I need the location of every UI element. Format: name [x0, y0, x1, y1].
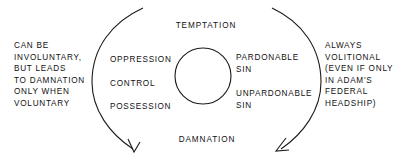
unpardonable-sin-line: SIN	[236, 100, 312, 112]
label-temptation: TEMPTATION	[166, 21, 246, 30]
left-explanation-line: BUT LEADS	[14, 63, 85, 75]
right-explanation-line: IN ADAM'S	[325, 75, 393, 87]
left-arrowhead-icon	[128, 139, 140, 152]
stage-label-possession: POSSESSION	[110, 102, 171, 111]
stage-label-unpardonable-sin: UNPARDONABLE SIN	[236, 88, 312, 113]
center-circle	[175, 48, 231, 104]
demonology-sin-diagram: TEMPTATION DAMNATION CAN BE INVOLUNTARY,…	[0, 0, 410, 163]
stage-label-oppression: OPPRESSION	[110, 55, 172, 64]
left-explanation-line: INVOLUNTARY,	[14, 52, 85, 64]
label-damnation: DAMNATION	[167, 135, 247, 144]
right-explanation-line: (EVEN IF ONLY	[325, 63, 393, 75]
left-explanation-line: TO DAMNATION	[14, 75, 85, 87]
stage-label-control: CONTROL	[110, 79, 155, 88]
right-explanation-line: HEADSHIP)	[325, 98, 393, 110]
right-explanation-line: ALWAYS	[325, 40, 393, 52]
right-descending-arc	[272, 8, 321, 149]
unpardonable-sin-line: UNPARDONABLE	[236, 88, 312, 100]
right-explanation-line: FEDERAL	[325, 86, 393, 98]
left-explanation-block: CAN BE INVOLUNTARY, BUT LEADS TO DAMNATI…	[14, 40, 85, 110]
left-explanation-line: ONLY WHEN	[14, 86, 85, 98]
pardonable-sin-line: SIN	[236, 64, 299, 76]
pardonable-sin-line: PARDONABLE	[236, 52, 299, 64]
stage-label-pardonable-sin: PARDONABLE SIN	[236, 52, 299, 77]
right-explanation-block: ALWAYS VOLITIONAL (EVEN IF ONLY IN ADAM'…	[325, 40, 393, 110]
left-explanation-line: VOLUNTARY	[14, 98, 85, 110]
left-explanation-line: CAN BE	[14, 40, 85, 52]
right-explanation-line: VOLITIONAL	[325, 52, 393, 64]
